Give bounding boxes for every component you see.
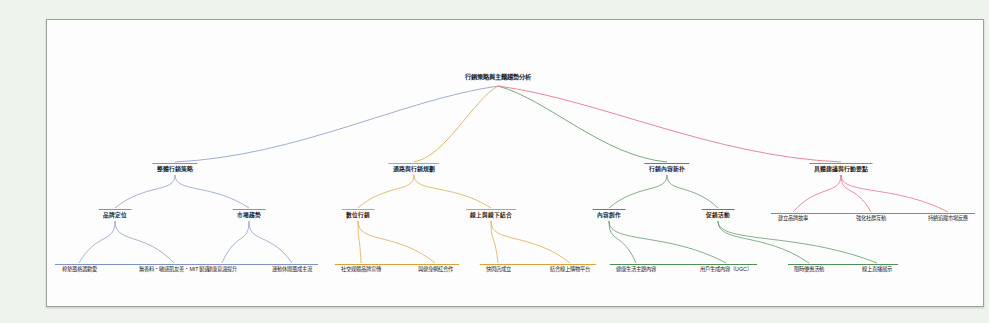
node-label: 整體行銷策略 bbox=[152, 166, 197, 172]
mindmap-edge bbox=[609, 175, 667, 208]
node-underline bbox=[233, 209, 266, 210]
node-label: 線上直播展示 bbox=[856, 267, 898, 273]
node-label: 數位行銷 bbox=[342, 212, 375, 218]
mindmap-edge bbox=[249, 221, 292, 263]
mindmap-edge bbox=[718, 221, 809, 263]
mindmap-edge bbox=[115, 221, 174, 263]
node-label: 強化社群互動 bbox=[850, 216, 892, 222]
node-label: 用戶生成內容（UGC） bbox=[695, 267, 756, 273]
branch-node-1[interactable]: 整體行銷策略 bbox=[152, 163, 197, 172]
subnode-3-2[interactable]: 促銷活動 bbox=[702, 209, 735, 218]
leaf-3-2-1[interactable]: 限時優惠活動 bbox=[788, 264, 830, 273]
node-label: 線上與線下結合 bbox=[466, 212, 516, 218]
node-underline bbox=[644, 163, 689, 164]
mindmap-edge bbox=[175, 175, 249, 208]
node-label: 與健身網紅合作 bbox=[411, 267, 458, 273]
leaf-row-underline bbox=[201, 264, 318, 265]
leaf-4-1[interactable]: 建立品牌故事 bbox=[772, 213, 814, 222]
leaf-1-2-2[interactable]: 運動休閒風成主流 bbox=[266, 264, 318, 273]
mindmap-edge-main bbox=[414, 86, 498, 162]
node-label: 棉墊風格選歡愛 bbox=[55, 267, 102, 273]
subnode-3-1[interactable]: 內容創作 bbox=[593, 209, 626, 218]
leaf-2-1-2[interactable]: 與健身網紅合作 bbox=[411, 264, 458, 273]
node-underline bbox=[152, 163, 197, 164]
node-underline bbox=[388, 163, 439, 164]
root-underline bbox=[458, 85, 538, 86]
node-label: 健康意識提升 bbox=[201, 267, 243, 273]
leaf-row-underline bbox=[480, 264, 596, 265]
leaf-3-1-1[interactable]: 健康生活主題內容 bbox=[610, 264, 662, 273]
leaf-2-2-1[interactable]: 快閃店成立 bbox=[480, 264, 517, 273]
node-label: 健康生活主題內容 bbox=[610, 267, 662, 273]
leaf-3-1-2[interactable]: 用戶生成內容（UGC） bbox=[695, 264, 756, 273]
subnode-2-2[interactable]: 線上與線下結合 bbox=[466, 209, 516, 218]
leaf-1-2-1[interactable]: 健康意識提升 bbox=[201, 264, 243, 273]
mindmap-edge bbox=[414, 175, 491, 208]
subnode-1-2[interactable]: 市場趨勢 bbox=[233, 209, 266, 218]
branch-node-3[interactable]: 行銷內容新扑 bbox=[644, 163, 689, 172]
node-label: 具體建議與行動要點 bbox=[809, 166, 872, 172]
leaf-row-underline bbox=[335, 264, 459, 265]
mindmap-edge bbox=[841, 175, 871, 212]
mindmap-edge bbox=[667, 175, 718, 208]
leaf-row-underline bbox=[610, 264, 757, 265]
leaf-2-1-1[interactable]: 社交媒體品牌宣傳 bbox=[335, 264, 387, 273]
node-label: 行銷內容新扑 bbox=[644, 166, 689, 172]
mindmap-edge-main bbox=[498, 86, 667, 162]
node-underline bbox=[99, 209, 132, 210]
mindmap-canvas: 行銷策略與主題趨勢分析整體行銷策略品牌定位棉墊風格選歡愛無香料・敏感肌友善・MI… bbox=[46, 19, 984, 307]
leaf-row-underline bbox=[55, 264, 215, 265]
node-underline bbox=[342, 209, 375, 210]
mindmap-edge-main bbox=[498, 86, 841, 162]
node-underline bbox=[593, 209, 626, 210]
mindmap-edge bbox=[841, 175, 948, 212]
mindmap-edge bbox=[79, 221, 115, 263]
node-label: 品牌定位 bbox=[99, 212, 132, 218]
mindmap-edge bbox=[115, 175, 175, 208]
leaf-4-2[interactable]: 強化社群互動 bbox=[850, 213, 892, 222]
mindmap-edge bbox=[609, 221, 726, 263]
mindmap-edge-main bbox=[175, 86, 498, 162]
subnode-2-1[interactable]: 數位行銷 bbox=[342, 209, 375, 218]
mindmap-edge bbox=[222, 221, 249, 263]
root-node[interactable]: 行銷策略與主題趨勢分析 bbox=[459, 74, 537, 81]
mindmap-edge bbox=[793, 175, 841, 212]
node-label: 促銷活動 bbox=[702, 212, 735, 218]
leaf-4-3[interactable]: 持續追蹤市場反應 bbox=[922, 213, 974, 222]
node-underline bbox=[809, 163, 872, 164]
node-label: 運動休閒風成主流 bbox=[266, 267, 318, 273]
subnode-1-1[interactable]: 品牌定位 bbox=[99, 209, 132, 218]
leaf-row-underline bbox=[771, 213, 975, 214]
leaf-3-2-2[interactable]: 線上直播展示 bbox=[856, 264, 898, 273]
node-label: 行銷策略與主題趨勢分析 bbox=[459, 74, 537, 81]
node-label: 社交媒體品牌宣傳 bbox=[335, 267, 387, 273]
node-label: 市場趨勢 bbox=[233, 212, 266, 218]
node-label: 結合線上購物平台 bbox=[544, 267, 596, 273]
node-underline bbox=[702, 209, 735, 210]
leaf-2-2-2[interactable]: 結合線上購物平台 bbox=[544, 264, 596, 273]
node-underline bbox=[466, 209, 516, 210]
node-label: 限時優惠活動 bbox=[788, 267, 830, 273]
branch-node-4[interactable]: 具體建議與行動要點 bbox=[809, 163, 872, 172]
mindmap-edge bbox=[718, 221, 877, 263]
node-label: 通路與行銷規劃 bbox=[388, 166, 439, 172]
mindmap-edge bbox=[609, 221, 636, 263]
node-label: 建立品牌故事 bbox=[772, 216, 814, 222]
mindmap-edge bbox=[491, 221, 570, 263]
node-label: 內容創作 bbox=[593, 212, 626, 218]
node-label: 持續追蹤市場反應 bbox=[922, 216, 974, 222]
branch-node-2[interactable]: 通路與行銷規劃 bbox=[388, 163, 439, 172]
mindmap-edge bbox=[358, 175, 414, 208]
node-label: 快閃店成立 bbox=[480, 267, 517, 273]
leaf-row-underline bbox=[788, 264, 898, 265]
mindmap-edge bbox=[358, 221, 435, 263]
leaf-1-1-1[interactable]: 棉墊風格選歡愛 bbox=[55, 264, 102, 273]
